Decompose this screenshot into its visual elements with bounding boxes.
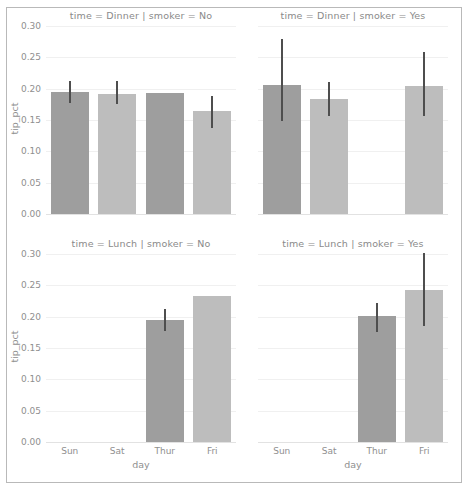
ytick-label: 0.30	[21, 249, 41, 259]
x-axis-label: day	[46, 459, 236, 470]
facet-dinner-yes: time = Dinner | smoker = Yes	[258, 10, 448, 214]
xtick-label-thur: Thur	[154, 446, 175, 456]
xtick-label-thur: Thur	[366, 446, 387, 456]
xtick-label-sun: Sun	[273, 446, 290, 456]
axes-lunch-yes: SunSatThurFriday	[258, 254, 448, 442]
xtick-label-sat: Sat	[110, 446, 125, 456]
errorbar-dinner-no-sat	[116, 81, 118, 104]
gridline-y	[258, 254, 448, 255]
xtick-label-fri: Fri	[207, 446, 218, 456]
errorbar-lunch-yes-thur	[376, 303, 378, 332]
bar-dinner-no-sat	[98, 94, 136, 214]
gridline-y	[46, 442, 236, 443]
gridline-y	[258, 285, 448, 286]
facet-lunch-yes: time = Lunch | smoker = YesSunSatThurFri…	[258, 238, 448, 442]
axes-dinner-no: 0.000.050.100.150.200.250.30	[46, 26, 236, 214]
errorbar-lunch-no-thur	[164, 309, 166, 332]
xtick-label-sun: Sun	[61, 446, 78, 456]
facet-title-lunch-no: time = Lunch | smoker = No	[46, 238, 236, 249]
chart-figure: time = Dinner | smoker = No0.000.050.100…	[0, 0, 469, 490]
ytick-label: 0.00	[21, 209, 41, 219]
bar-dinner-no-thur	[146, 93, 184, 214]
gridline-y	[46, 214, 236, 215]
ytick-label: 0.30	[21, 21, 41, 31]
gridline-y	[46, 26, 236, 27]
gridline-y	[258, 26, 448, 27]
gridline-y	[46, 285, 236, 286]
errorbar-dinner-yes-fri	[423, 52, 425, 115]
ytick-label: 0.00	[21, 437, 41, 447]
errorbar-dinner-no-sun	[69, 81, 71, 103]
ytick-label: 0.25	[21, 280, 41, 290]
bar-lunch-no-fri	[193, 296, 231, 442]
xtick-label-sat: Sat	[322, 446, 337, 456]
gridline-y	[46, 254, 236, 255]
errorbar-dinner-yes-sun	[281, 39, 283, 122]
bar-lunch-yes-thur	[358, 316, 396, 442]
gridline-y	[258, 214, 448, 215]
facet-title-dinner-no: time = Dinner | smoker = No	[46, 10, 236, 21]
ytick-label: 0.20	[21, 312, 41, 322]
bar-dinner-yes-sat	[310, 99, 348, 214]
axes-lunch-no: 0.000.050.100.150.200.250.30SunSatThurFr…	[46, 254, 236, 442]
ytick-label: 0.05	[21, 178, 41, 188]
ytick-label: 0.05	[21, 406, 41, 416]
ytick-label: 0.20	[21, 84, 41, 94]
ytick-label: 0.10	[21, 146, 41, 156]
bar-lunch-no-thur	[146, 320, 184, 442]
ytick-label: 0.15	[21, 343, 41, 353]
facet-title-lunch-yes: time = Lunch | smoker = Yes	[258, 238, 448, 249]
gridline-y	[46, 89, 236, 90]
errorbar-dinner-yes-sat	[328, 82, 330, 115]
ytick-label: 0.10	[21, 374, 41, 384]
axes-dinner-yes	[258, 26, 448, 214]
gridline-y	[258, 57, 448, 58]
ytick-label: 0.25	[21, 52, 41, 62]
y-axis-label: tip_pct	[9, 99, 20, 139]
gridline-y	[258, 442, 448, 443]
facet-title-dinner-yes: time = Dinner | smoker = Yes	[258, 10, 448, 21]
xtick-label-fri: Fri	[419, 446, 430, 456]
errorbar-dinner-no-fri	[211, 96, 213, 127]
gridline-y	[46, 57, 236, 58]
bar-dinner-no-sun	[51, 92, 89, 214]
errorbar-lunch-yes-fri	[423, 253, 425, 326]
y-axis-label: tip_pct	[9, 327, 20, 367]
facet-grid: time = Dinner | smoker = No0.000.050.100…	[0, 0, 469, 490]
ytick-label: 0.15	[21, 115, 41, 125]
facet-dinner-no: time = Dinner | smoker = No0.000.050.100…	[46, 10, 236, 214]
facet-lunch-no: time = Lunch | smoker = No0.000.050.100.…	[46, 238, 236, 442]
x-axis-label: day	[258, 459, 448, 470]
